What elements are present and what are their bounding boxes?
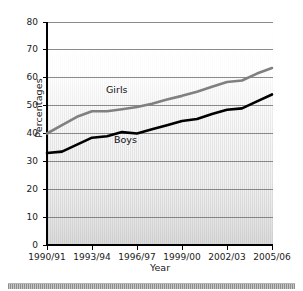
y-tick-label: 0 — [12, 241, 38, 250]
plot-area — [0, 0, 303, 291]
series-label-boys: Boys — [114, 134, 137, 145]
line-chart-figure: 80 70 60 50 40 30 20 10 0 1990/91 1993/9… — [0, 0, 303, 291]
x-axis-title: Year — [47, 262, 273, 273]
y-tick-label: 30 — [12, 157, 38, 166]
series-label-girls: Girls — [106, 84, 128, 95]
y-tick-label: 70 — [12, 45, 38, 54]
y-tick-label: 20 — [12, 185, 38, 194]
y-axis-title: Percentages — [33, 63, 44, 153]
y-tick-label: 10 — [12, 213, 38, 222]
x-tick-marks — [47, 245, 272, 250]
y-tick-label: 80 — [12, 18, 38, 27]
bottom-decorative-rule — [8, 283, 295, 289]
x-tick-label: 2005/06 — [246, 253, 298, 262]
